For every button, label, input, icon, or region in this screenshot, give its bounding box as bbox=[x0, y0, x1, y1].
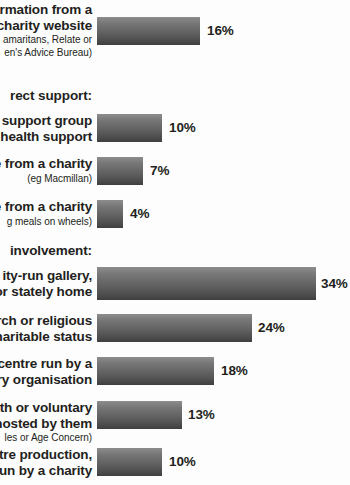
row-sublabel-line1: g meals on wheels) bbox=[0, 215, 92, 228]
bar-value-label: 13% bbox=[188, 407, 215, 422]
row-label-line1: tre production, bbox=[0, 447, 92, 463]
row-sublabel-line2: en's Advice Bureau) bbox=[0, 46, 92, 59]
section-heading-text: rect support: bbox=[10, 88, 92, 103]
bar-7 bbox=[97, 157, 143, 185]
bar-value-label: 34% bbox=[321, 276, 348, 291]
row-label-line1: e from a charity bbox=[0, 199, 92, 215]
bar-value-label: 16% bbox=[207, 23, 234, 38]
row-sublabel-line1: (eg Macmillan) bbox=[0, 172, 92, 185]
bar-4 bbox=[97, 200, 123, 228]
row-label: rmation from a charity website amaritans… bbox=[0, 2, 92, 59]
section-heading-direct-support: rect support: bbox=[0, 88, 92, 103]
row-label-line2: health support bbox=[0, 129, 92, 145]
row-label-line1: rmation from a bbox=[0, 2, 92, 18]
section-heading-text: involvement: bbox=[10, 243, 92, 258]
bar-value-label: 18% bbox=[221, 363, 248, 378]
bar-16 bbox=[97, 17, 200, 45]
row-label-line1: ity-run gallery, bbox=[0, 268, 92, 284]
row-label-line2: ry organisation bbox=[0, 372, 92, 388]
row-label-line1: th or voluntary bbox=[0, 400, 92, 416]
section-heading-involvement: involvement: bbox=[0, 243, 92, 258]
row-label: rch or religious haritable status bbox=[0, 313, 92, 344]
bar-value-label: 10% bbox=[169, 120, 196, 135]
row-label-line2: haritable status bbox=[0, 329, 92, 345]
row-label: ity-run gallery, or stately home bbox=[0, 268, 92, 299]
bar-18 bbox=[97, 357, 214, 385]
row-label: e from a charity g meals on wheels) bbox=[0, 199, 92, 228]
row-label-line2: charity website bbox=[0, 18, 92, 34]
row-label-line1: rch or religious bbox=[0, 313, 92, 329]
bar-10-a bbox=[97, 114, 162, 142]
row-sublabel-line1: amaritans, Relate or bbox=[0, 33, 92, 46]
bar-10-b bbox=[97, 448, 162, 476]
row-label-line2: un by a charity bbox=[0, 463, 92, 479]
bar-value-label: 4% bbox=[130, 206, 149, 221]
row-label: centre run by a ry organisation bbox=[0, 356, 92, 387]
row-label-line2: hosted by them bbox=[0, 416, 92, 432]
bar-34 bbox=[97, 267, 316, 300]
bar-13 bbox=[97, 401, 182, 429]
row-label-line2: or stately home bbox=[0, 284, 92, 300]
row-label: e from a charity (eg Macmillan) bbox=[0, 156, 92, 185]
row-label: support group health support bbox=[0, 113, 92, 144]
bar-value-label: 7% bbox=[150, 163, 169, 178]
row-label-line1: support group bbox=[0, 113, 92, 129]
row-label: th or voluntary hosted by them les or Ag… bbox=[0, 400, 92, 444]
row-label: tre production, un by a charity bbox=[0, 447, 92, 478]
bar-value-label: 24% bbox=[258, 320, 285, 335]
row-label-line1: e from a charity bbox=[0, 156, 92, 172]
row-label-line1: centre run by a bbox=[0, 356, 92, 372]
row-sublabel-line1: les or Age Concern) bbox=[0, 431, 92, 444]
bar-value-label: 10% bbox=[169, 454, 196, 469]
bar-chart: rmation from a charity website amaritans… bbox=[0, 0, 350, 485]
bar-24 bbox=[97, 314, 252, 342]
